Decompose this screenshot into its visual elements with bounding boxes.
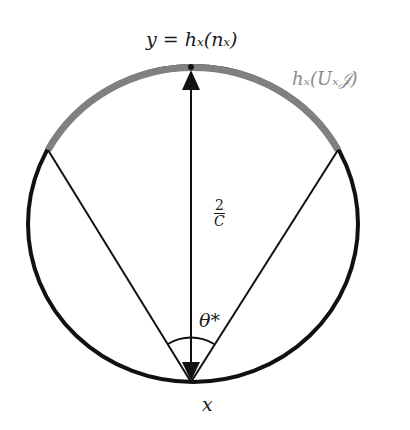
right-ray [191,150,338,382]
diagram-canvas [0,0,410,430]
label-bottom-point: x [202,393,213,415]
distance-denominator: C [214,214,225,229]
label-distance: 2 C [214,198,225,229]
distance-numerator: 2 [214,198,225,214]
label-arc: hₓ(Uₓ𝒥) [292,68,358,90]
left-ray [48,150,191,382]
label-angle: θ* [199,309,220,331]
arrowhead-up-icon [182,70,200,90]
point-y [188,64,194,70]
label-top-point: y = hₓ(nₓ) [146,28,238,50]
